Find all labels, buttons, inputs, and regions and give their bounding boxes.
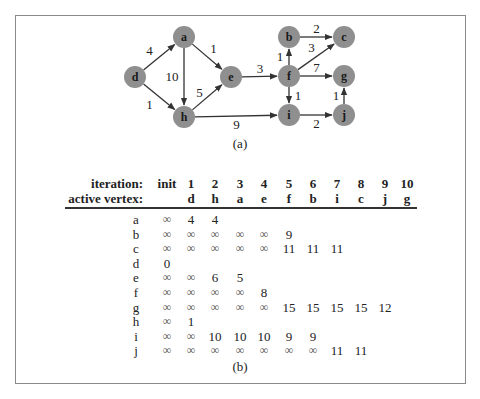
distance-cell: ∞	[163, 343, 172, 358]
active-vertex-6: b	[309, 191, 316, 207]
node-label-a: a	[181, 30, 187, 44]
iteration-1: 1	[188, 176, 195, 192]
graph-caption: (a)	[233, 136, 247, 152]
iteration-8: 8	[358, 176, 365, 192]
distance-cell: ∞	[163, 285, 172, 300]
distance-cell: 15	[355, 300, 368, 316]
distance-cell: ∞	[285, 343, 294, 358]
iteration-label: iteration:	[91, 176, 143, 192]
active-vertex-10: g	[404, 191, 411, 207]
active-vertex-5: f	[287, 191, 291, 207]
row-label-j: j	[134, 343, 138, 359]
iteration-5: 5	[286, 176, 293, 192]
distance-cell: ∞	[236, 241, 245, 256]
edge-weight-d-h: 1	[146, 97, 153, 112]
distance-cell: 12	[379, 300, 392, 316]
header-rule	[65, 207, 417, 209]
distance-cell: ∞	[187, 227, 196, 242]
distance-cell: ∞	[211, 285, 220, 300]
distance-cell: ∞	[163, 227, 172, 242]
edge-weight-i-j: 2	[313, 116, 320, 131]
distance-cell: 9	[286, 227, 293, 243]
edge-weight-h-i: 9	[233, 117, 240, 132]
distance-cell: 8	[261, 285, 268, 301]
distance-cell: 11	[331, 241, 344, 257]
distance-cell: 10	[209, 329, 222, 345]
distance-cell: ∞	[236, 285, 245, 300]
iteration-3: 3	[237, 176, 244, 192]
iteration-4: 4	[261, 176, 268, 192]
distance-cell: 15	[331, 300, 344, 316]
row-label-f: f	[134, 285, 138, 301]
active-vertex-7: i	[335, 191, 339, 207]
edge-a-e	[192, 44, 221, 69]
distance-cell: ∞	[163, 212, 172, 227]
node-label-c: c	[341, 30, 347, 44]
row-label-b: b	[133, 227, 140, 243]
distance-cell: ∞	[187, 285, 196, 300]
distance-cell: 9	[286, 329, 293, 345]
active-vertex-3: a	[237, 191, 244, 207]
edge-weight-h-e: 5	[196, 85, 203, 100]
node-label-g: g	[341, 69, 347, 83]
edge-weight-e-f: 3	[257, 61, 264, 76]
distance-cell: 10	[258, 329, 271, 345]
edge-weight-f-c: 3	[308, 40, 315, 55]
active-vertex-9: j	[383, 191, 387, 207]
distance-cell: 10	[234, 329, 247, 345]
iteration-6: 6	[310, 176, 317, 192]
distance-cell: 11	[331, 343, 344, 359]
node-label-b: b	[286, 30, 293, 44]
row-label-g: g	[133, 300, 140, 316]
distance-cell: ∞	[236, 227, 245, 242]
distance-cell: ∞	[163, 300, 172, 315]
distance-cell: ∞	[211, 343, 220, 358]
distance-cell: 5	[237, 270, 244, 286]
edge-weight-b-c: 2	[313, 21, 320, 36]
edge-weight-a-h: 10	[166, 69, 179, 84]
distance-cell: 11	[283, 241, 296, 257]
distance-cell: ∞	[163, 329, 172, 344]
edge-weight-j-g: 1	[333, 88, 340, 103]
node-label-h: h	[181, 110, 188, 124]
distance-cell: ∞	[236, 343, 245, 358]
distance-cell: 9	[310, 329, 317, 345]
iteration-9: 9	[382, 176, 389, 192]
distance-cell: 15	[283, 300, 296, 316]
distance-cell: ∞	[260, 343, 269, 358]
table-caption: (b)	[232, 359, 247, 375]
row-label-e: e	[133, 270, 139, 286]
distance-cell: 6	[212, 270, 219, 286]
node-label-d: d	[132, 70, 139, 84]
row-label-h: h	[133, 314, 140, 330]
active-vertex-1: d	[187, 191, 194, 207]
distance-cell: ∞	[309, 343, 318, 358]
distance-cell: ∞	[163, 241, 172, 256]
distance-cell: 4	[188, 212, 195, 228]
edge-weight-f-b: 1	[277, 49, 284, 64]
node-label-e: e	[228, 70, 234, 84]
active-vertex-8: c	[358, 191, 364, 207]
distance-cell: 11	[355, 343, 368, 359]
distance-cell: ∞	[187, 270, 196, 285]
active-vertex-label: active vertex:	[68, 191, 143, 207]
row-label-c: c	[133, 241, 139, 257]
distance-cell: ∞	[187, 343, 196, 358]
distance-cell: ∞	[187, 300, 196, 315]
distance-cell: ∞	[260, 227, 269, 242]
iteration-2: 2	[212, 176, 219, 192]
distance-cell: ∞	[163, 314, 172, 329]
edge-weight-f-i: 1	[295, 88, 302, 103]
distance-cell: ∞	[211, 300, 220, 315]
iteration-10: 10	[401, 176, 414, 192]
distance-cell: ∞	[260, 300, 269, 315]
distance-cell: 0	[164, 256, 171, 272]
distance-cell: ∞	[163, 270, 172, 285]
distance-cell: ∞	[236, 300, 245, 315]
distance-cell: ∞	[187, 329, 196, 344]
edge-e-f	[242, 76, 277, 77]
active-vertex-4: e	[261, 191, 267, 207]
distance-cell: 11	[307, 241, 320, 257]
active-vertex-2: h	[211, 191, 218, 207]
distance-cell: ∞	[260, 241, 269, 256]
